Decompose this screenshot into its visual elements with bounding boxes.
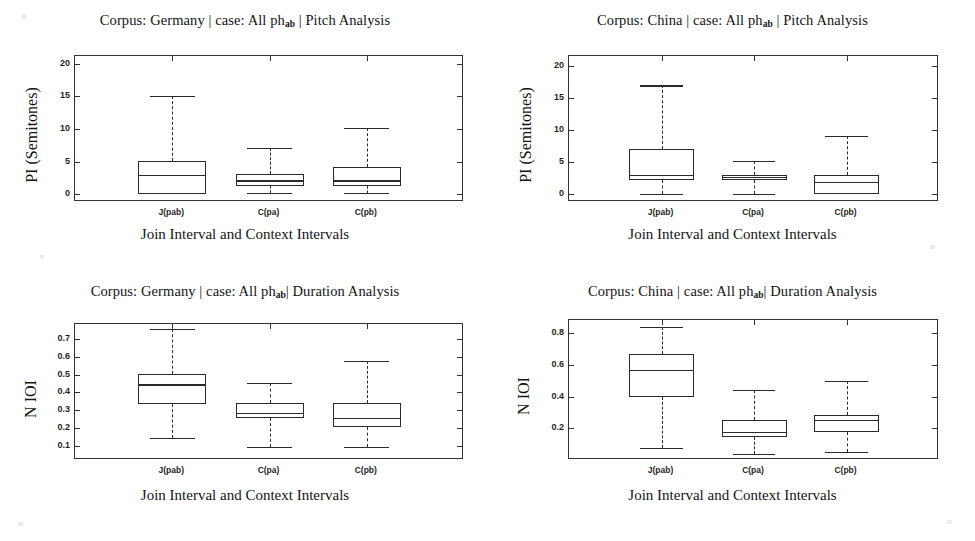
y-tick-mark	[569, 194, 574, 195]
whisker-upper	[662, 85, 663, 149]
title-analysis: | Duration Analysis	[286, 283, 400, 299]
y-tick-mark	[569, 333, 574, 334]
whisker-upper	[662, 327, 663, 354]
whisker-lower	[754, 180, 755, 194]
whisker-cap-lower	[344, 193, 389, 194]
y-tick-mark	[75, 392, 80, 393]
x-tick-label: C(pb)	[355, 465, 377, 475]
y-tick-label: 0.2	[534, 422, 564, 432]
box	[722, 420, 787, 437]
median-line	[236, 413, 304, 414]
plot-area-china-pitch	[568, 55, 938, 201]
x-tick-mark	[172, 56, 173, 61]
y-tick-label: 20	[40, 58, 70, 68]
y-tick-mark	[75, 428, 80, 429]
y-tick-mark	[75, 96, 80, 97]
whisker-lower	[270, 418, 271, 446]
whisker-upper	[367, 128, 368, 168]
scan-speck	[18, 522, 23, 526]
box	[814, 175, 879, 194]
y-tick-label: 5	[534, 156, 564, 166]
y-tick-mark	[932, 397, 937, 398]
plot-area-germany-duration	[74, 323, 463, 459]
title-prefix: Corpus:	[588, 283, 638, 299]
whisker-cap-lower	[640, 194, 683, 195]
median-line	[629, 175, 694, 176]
whisker-cap-upper	[150, 329, 195, 330]
whisker-cap-upper	[247, 148, 292, 149]
whisker-upper	[172, 329, 173, 373]
x-tick-label: J(pab)	[648, 207, 674, 217]
y-tick-mark	[457, 446, 462, 447]
ylabel-germany-pitch: PI (Semitones)	[23, 65, 41, 205]
y-tick-mark	[569, 130, 574, 131]
y-tick-mark	[457, 194, 462, 195]
y-tick-mark	[932, 98, 937, 99]
y-tick-mark	[569, 98, 574, 99]
whisker-cap-lower	[825, 452, 868, 453]
box	[814, 415, 879, 432]
median-line	[722, 177, 787, 178]
median-line	[722, 432, 787, 433]
whisker-cap-lower	[733, 194, 776, 195]
y-tick-mark	[457, 64, 462, 65]
y-tick-mark	[75, 446, 80, 447]
x-tick-mark	[172, 324, 173, 329]
y-tick-mark	[457, 428, 462, 429]
y-tick-label: 0.2	[40, 422, 70, 432]
y-tick-mark	[75, 194, 80, 195]
y-tick-label: 20	[534, 60, 564, 70]
y-tick-mark	[75, 410, 80, 411]
boxplot-figure: Corpus: Germany | case: All phab | Pitch…	[0, 0, 975, 541]
panel-germany-pitch: Corpus: Germany | case: All phab | Pitch…	[0, 8, 490, 256]
x-tick-label: C(pa)	[258, 465, 280, 475]
y-tick-mark	[457, 162, 462, 163]
y-tick-mark	[569, 428, 574, 429]
whisker-cap-lower	[640, 448, 683, 449]
title-case: | case: All ph	[205, 12, 285, 28]
y-tick-label: 0	[40, 188, 70, 198]
y-tick-label: 0.8	[534, 327, 564, 337]
y-tick-mark	[457, 392, 462, 393]
whisker-cap-lower	[247, 447, 292, 448]
y-tick-mark	[75, 129, 80, 130]
y-tick-mark	[457, 375, 462, 376]
title-analysis: | Duration Analysis	[764, 283, 878, 299]
y-tick-mark	[457, 129, 462, 130]
x-tick-mark	[754, 56, 755, 61]
y-tick-mark	[932, 365, 937, 366]
median-line	[138, 175, 206, 176]
scan-speck	[22, 14, 26, 19]
median-line	[333, 418, 401, 419]
whisker-cap-upper	[247, 383, 292, 384]
x-tick-label: C(pb)	[834, 465, 856, 475]
whisker-upper	[754, 161, 755, 175]
whisker-lower	[367, 186, 368, 193]
median-line	[333, 180, 401, 181]
y-tick-label: 10	[534, 124, 564, 134]
box	[236, 403, 304, 418]
title-prefix: Corpus:	[91, 283, 141, 299]
whisker-cap-upper	[344, 361, 389, 362]
title-analysis: | Pitch Analysis	[295, 12, 390, 28]
whisker-upper	[847, 136, 848, 175]
plot-area-china-duration	[568, 319, 938, 459]
y-tick-label: 0.5	[40, 369, 70, 379]
title-subscript: ab	[763, 19, 773, 29]
scan-speck	[40, 255, 44, 259]
title-analysis: | Pitch Analysis	[773, 12, 868, 28]
whisker-lower	[662, 397, 663, 448]
scan-speck	[947, 520, 952, 524]
panel-title-china-pitch: Corpus: China | case: All phab | Pitch A…	[490, 12, 975, 29]
x-tick-mark	[847, 56, 848, 61]
whisker-lower	[270, 186, 271, 193]
whisker-cap-upper	[640, 85, 683, 86]
panel-china-pitch: Corpus: China | case: All phab | Pitch A…	[490, 8, 975, 256]
title-corpus: Germany	[150, 12, 205, 28]
median-line	[814, 420, 879, 421]
whisker-lower	[662, 180, 663, 194]
x-tick-label: C(pa)	[258, 207, 280, 217]
y-tick-label: 0.3	[40, 404, 70, 414]
x-tick-label: C(pa)	[742, 207, 764, 217]
whisker-cap-upper	[825, 136, 868, 137]
